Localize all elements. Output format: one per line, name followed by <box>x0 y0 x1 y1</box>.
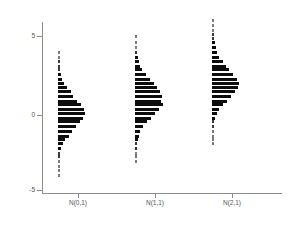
histogram-bar <box>212 90 235 93</box>
histogram-bar <box>135 56 138 59</box>
histogram-bar <box>135 108 159 111</box>
histogram-bar <box>58 130 72 133</box>
histogram-bar <box>212 56 219 59</box>
histogram-bar <box>58 68 60 71</box>
histogram-bar <box>58 138 65 141</box>
histogram-bar <box>135 147 137 150</box>
histogram-bar <box>58 51 60 54</box>
histogram-bar <box>212 37 214 40</box>
histogram-bar <box>58 95 73 98</box>
histogram-bar <box>58 78 62 81</box>
histogram-bar <box>58 86 67 89</box>
histogram-bar <box>212 19 214 22</box>
histogram-bar <box>212 125 214 128</box>
histogram-bar <box>212 95 231 98</box>
histogram-bar <box>212 103 223 106</box>
histogram-bar <box>58 108 84 111</box>
histogram-bar <box>135 112 155 115</box>
histogram-bar <box>212 33 214 36</box>
histogram-bar <box>212 142 214 145</box>
histogram-bar <box>212 82 239 85</box>
histogram-bar <box>135 125 143 128</box>
histogram-bar <box>212 108 219 111</box>
histogram-bar <box>135 95 162 98</box>
histogram-bar <box>212 51 217 54</box>
histogram-bar <box>212 73 233 76</box>
histogram-bar <box>135 160 137 163</box>
histogram-bar <box>58 165 60 168</box>
histogram-bar <box>58 82 64 85</box>
histogram-bar <box>58 169 60 172</box>
histogram-bar <box>58 174 60 177</box>
histogram-bar <box>212 24 214 27</box>
histogram-bar <box>212 120 214 123</box>
histogram-bar <box>135 78 150 81</box>
histogram-bar <box>135 73 146 76</box>
histogram-bar <box>135 41 137 44</box>
histogram-bar <box>212 130 214 133</box>
histogram-bar <box>58 56 60 59</box>
histogram-bar <box>135 138 138 141</box>
histogram-bar <box>58 160 60 163</box>
histogram-bar <box>58 60 60 63</box>
histogram-bar <box>58 103 81 106</box>
histogram-bar <box>58 120 80 123</box>
histogram-bar <box>135 51 137 54</box>
histogram-bar <box>135 82 154 85</box>
histogram-bar <box>135 46 137 49</box>
histogram-bar <box>135 68 142 71</box>
histogram-bar <box>58 90 71 93</box>
histogram-bar <box>212 138 214 141</box>
dotplot-chart: 5 0 -5 N(0,1) N(1,1) N(2,1) <box>0 0 290 225</box>
histogram-bar <box>135 90 160 93</box>
histogram-bar <box>135 60 139 63</box>
histogram-bar <box>58 125 76 128</box>
histogram-bar <box>212 41 215 44</box>
histogram-bar <box>135 86 157 89</box>
bar-layer <box>0 0 290 225</box>
histogram-bar <box>212 68 229 71</box>
histogram-bar <box>135 130 140 133</box>
histogram-bar <box>135 120 147 123</box>
histogram-bar <box>58 73 61 76</box>
histogram-bar <box>212 112 217 115</box>
histogram-bar <box>135 103 163 106</box>
histogram-bar <box>135 35 137 38</box>
histogram-bar <box>212 86 238 89</box>
histogram-bar <box>212 46 216 49</box>
histogram-bar <box>135 155 137 158</box>
histogram-bar <box>212 29 214 32</box>
histogram-bar <box>135 142 137 145</box>
histogram-bar <box>58 112 85 115</box>
histogram-bar <box>212 60 223 63</box>
histogram-bar <box>58 155 60 158</box>
histogram-bar <box>58 142 63 145</box>
histogram-bar <box>58 147 61 150</box>
histogram-bar <box>212 78 237 81</box>
